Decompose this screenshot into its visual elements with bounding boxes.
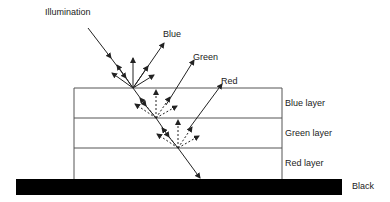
blue-scatter bbox=[112, 43, 164, 88]
scatter-arrow bbox=[156, 97, 170, 118]
illumination-path bbox=[88, 28, 200, 178]
black-base bbox=[16, 179, 342, 195]
red-label: Red bbox=[221, 76, 238, 86]
layer-diagram: Illumination Blue Green Red Blue layer G… bbox=[0, 0, 390, 202]
illumination-ray-in bbox=[88, 28, 111, 58]
illumination-label: Illumination bbox=[45, 7, 91, 17]
green-reflected-arrow bbox=[166, 60, 194, 105]
scatter-arrow bbox=[133, 75, 154, 88]
red-layer-label: Red layer bbox=[285, 158, 324, 168]
scatter-arrow bbox=[156, 106, 177, 118]
layer-stack bbox=[74, 88, 282, 179]
scatter-arrow bbox=[117, 65, 133, 88]
blue-layer-label: Blue layer bbox=[285, 98, 325, 108]
scatter-arrow bbox=[178, 136, 199, 148]
green-layer-label: Green layer bbox=[285, 128, 332, 138]
red-reflected-arrow bbox=[188, 84, 222, 130]
blue-label: Blue bbox=[163, 29, 181, 39]
blue-reflected-arrow bbox=[133, 43, 164, 88]
green-label: Green bbox=[193, 52, 218, 62]
scatter-arrow bbox=[157, 134, 178, 148]
scatter-arrow bbox=[112, 73, 133, 88]
ray-red-to-black bbox=[178, 148, 200, 178]
ray-blue-to-green bbox=[133, 88, 146, 106]
green-scatter bbox=[135, 90, 177, 118]
black-label: Black bbox=[352, 181, 375, 191]
scatter-arrow bbox=[178, 127, 192, 148]
